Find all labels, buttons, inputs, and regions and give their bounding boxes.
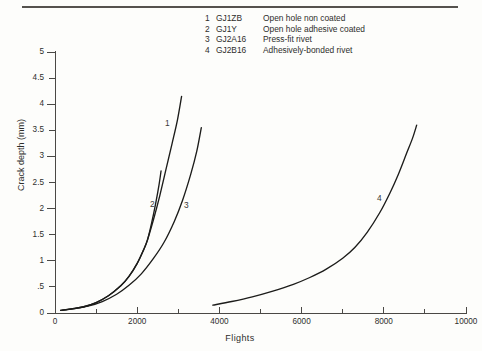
curve-3 xyxy=(61,128,202,311)
curve-2 xyxy=(61,171,161,310)
curve-1 xyxy=(61,96,182,310)
curve-label-3: 3 xyxy=(184,200,189,210)
curve-label-2: 2 xyxy=(150,199,155,209)
curve-label-4: 4 xyxy=(377,193,382,203)
curve-label-1: 1 xyxy=(165,118,170,128)
curve-4 xyxy=(213,125,417,305)
